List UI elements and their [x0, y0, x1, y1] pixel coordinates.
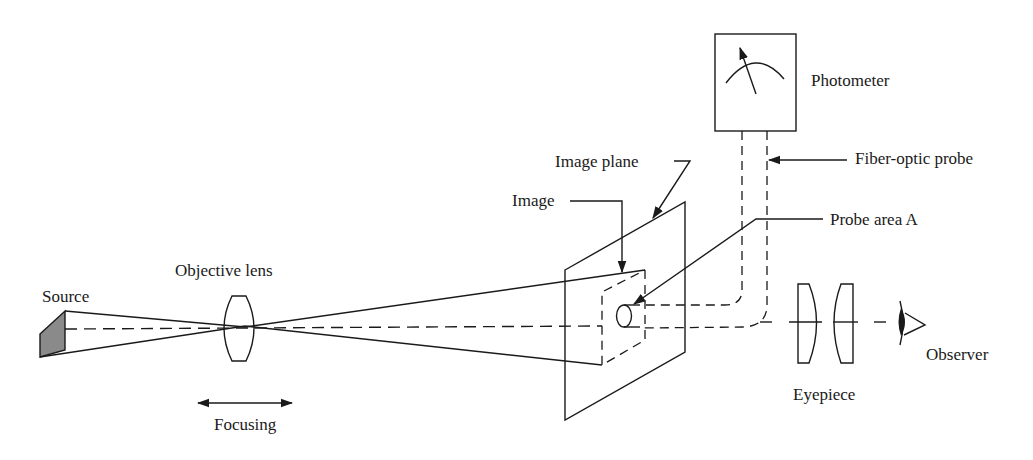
- photometer: [715, 34, 796, 131]
- image-plane: [565, 202, 685, 420]
- observer-label: Observer: [926, 345, 989, 364]
- photometer-label: Photometer: [811, 71, 890, 90]
- eyepiece: [789, 284, 886, 363]
- probe-area-leader: [634, 219, 823, 304]
- probe-area-label: Probe area A: [830, 210, 919, 229]
- image-label: Image: [512, 191, 554, 210]
- fiber-optic-probe-label: Fiber-optic probe: [855, 149, 973, 168]
- focusing-label: Focusing: [214, 415, 277, 434]
- optical-diagram: Source Objective lens Focusing Image pla…: [0, 0, 1033, 460]
- eyepiece-label: Eyepiece: [793, 385, 855, 404]
- source-rays: [40, 311, 245, 357]
- probe-area: [617, 305, 641, 327]
- image-plane-label: Image plane: [555, 152, 639, 171]
- optical-axis: [65, 326, 602, 329]
- source-block: [40, 311, 65, 357]
- image-leader: [570, 201, 622, 272]
- image-region: [602, 270, 645, 365]
- fiber-optic-probe: [640, 131, 767, 328]
- image-rays: [245, 270, 645, 365]
- objective-lens-label: Objective lens: [175, 261, 273, 280]
- observer-eye-icon: [899, 301, 926, 345]
- source-label: Source: [42, 287, 89, 306]
